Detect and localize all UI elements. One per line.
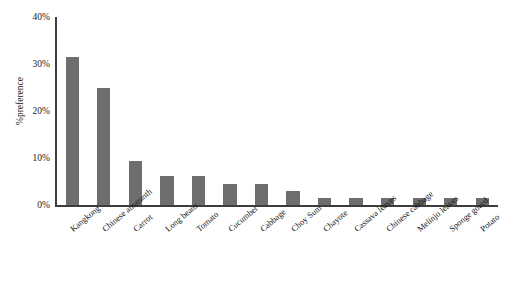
bar-slot: [223, 17, 236, 205]
bar[interactable]: [160, 176, 173, 205]
bar-slot: [413, 17, 426, 205]
bar-slot: [255, 17, 268, 205]
bar-slot: [129, 17, 142, 205]
x-axis-tick-label: Cabbage: [258, 207, 287, 234]
bar-series: [57, 17, 498, 205]
bar[interactable]: [66, 57, 79, 205]
bar-slot: [381, 17, 394, 205]
y-axis-tick-label: 30%: [33, 59, 50, 69]
y-axis-tick-label: 0%: [37, 200, 50, 210]
y-axis-tick-label: 40%: [33, 12, 50, 22]
bar[interactable]: [223, 184, 236, 205]
y-axis-tick-label: 20%: [33, 106, 50, 116]
bar-slot: [444, 17, 457, 205]
bar-slot: [192, 17, 205, 205]
bar-slot: [476, 17, 489, 205]
y-axis-tick-label: 10%: [33, 153, 50, 163]
bar-slot: [349, 17, 362, 205]
bar-slot: [318, 17, 331, 205]
bar-slot: [97, 17, 110, 205]
bar[interactable]: [255, 184, 268, 205]
bar-slot: [160, 17, 173, 205]
plot-area: 0%10%20%30%40% KangkongChinese amaranthC…: [55, 17, 498, 205]
x-axis-tick-label: Choy Sum: [289, 203, 323, 234]
x-axis-tick-label: Potato: [478, 212, 501, 234]
x-axis-tick-label: Kangkong: [68, 203, 102, 234]
x-axis-tick-label: Carrot: [131, 212, 154, 234]
x-axis-tick-label: Cucumber: [226, 203, 260, 234]
x-axis-tick-label: Tomato: [194, 209, 220, 233]
bar[interactable]: [349, 198, 362, 205]
bar-slot: [66, 17, 79, 205]
y-axis-title: %preference: [15, 51, 25, 151]
chart-page: %preference 0%10%20%30%40% KangkongChine…: [0, 0, 505, 289]
bar[interactable]: [286, 191, 299, 205]
bar[interactable]: [318, 198, 331, 205]
bar-slot: [286, 17, 299, 205]
x-axis-tick-label: Chayote: [321, 208, 349, 234]
bar[interactable]: [97, 88, 110, 206]
